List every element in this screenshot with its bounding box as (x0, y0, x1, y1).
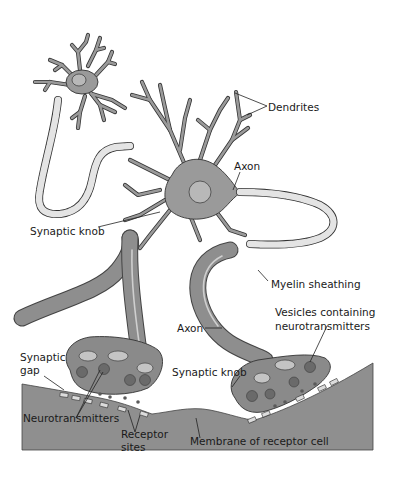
label-vesicles-line2: neurotransmitters (275, 320, 370, 332)
label-synaptic-gap-line2: gap (20, 364, 40, 376)
left-synaptic-knob (66, 337, 162, 395)
small-neuron-myelinated-axon (39, 100, 130, 214)
axons-to-synapses (22, 238, 265, 360)
label-synaptic-gap-line1: Synaptic (20, 351, 66, 363)
label-vesicles-line1: Vesicles containing (275, 306, 375, 318)
label-membrane-of-receptor-cell: Membrane of receptor cell (190, 435, 329, 447)
large-neuron-myelinated-axon (240, 192, 334, 245)
small-neuron-nucleus (72, 74, 86, 86)
label-neurotransmitters: Neurotransmitters (23, 412, 119, 424)
label-synaptic-knob-top: Synaptic knob (30, 225, 105, 237)
neuron-synapse-diagram: Dendrites Axon Synaptic knob Myelin shea… (0, 0, 395, 477)
large-neuron-nucleus (189, 181, 211, 203)
label-axon-top: Axon (234, 160, 260, 172)
label-synaptic-knob-bottom: Synaptic knob (172, 366, 247, 378)
label-receptor-sites-line2: sites (121, 441, 145, 453)
label-dendrites: Dendrites (268, 101, 319, 113)
small-neuron (35, 35, 125, 128)
label-receptor-sites-line1: Receptor (121, 428, 169, 440)
label-axon-bottom: Axon (177, 322, 203, 334)
label-myelin-sheathing: Myelin sheathing (271, 278, 361, 290)
